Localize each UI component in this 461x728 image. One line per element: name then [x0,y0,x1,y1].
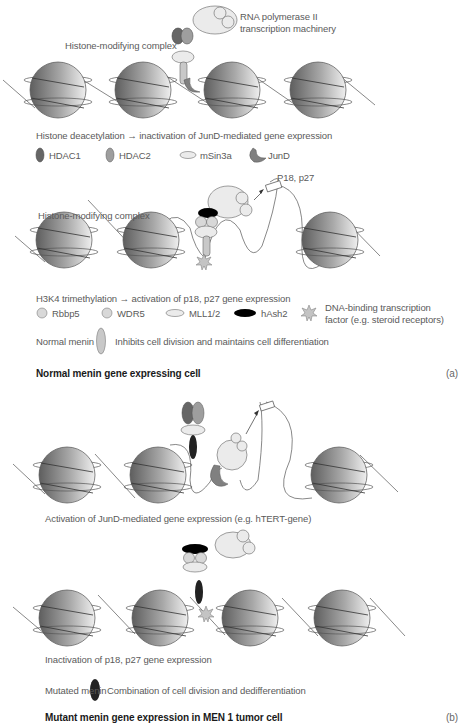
legend-tf-line2: factor (e.g. steroid receptors) [325,314,444,325]
transcription-factor-icon [301,305,317,321]
legend-mll: MLL1/2 [189,308,220,319]
caption-inactivation: Inactivation of p18, p27 gene expression [45,654,212,665]
legend-msin3a: mSin3a [200,150,232,161]
msin3a-icon [180,152,196,159]
legend-hash2: hAsh2 [261,308,287,319]
hash2-icon [234,309,256,317]
jund-icon [184,78,200,92]
nucleosome [24,62,92,118]
hmc-label-top: Histone-modifying complex [65,40,177,51]
nucleosome [33,590,101,646]
p18-p27-label: P18, p27 [277,172,314,183]
mll-icon [183,562,207,572]
row4-dna [13,590,405,646]
rnapol-label-1: RNA polymerase II [240,11,318,22]
mutated-menin-icon [195,580,203,604]
panel-b-tag: (b) [446,712,458,723]
rbbp5-icon [37,308,47,318]
caption-trimethylation: H3K4 trimethylation → activation of p18,… [36,293,290,304]
normal-menin-desc: Inhibits cell division and maintains cel… [115,336,329,347]
mutated-menin-icon [189,435,197,459]
normal-menin-icon [97,328,106,354]
hmc-label-mid: Histone-modifying complex [38,210,150,221]
nucleosome [308,590,376,646]
panel-a-title: Normal menin gene expressing cell [36,368,201,379]
nucleosome [126,590,194,646]
caption-activation: Activation of JunD-mediated gene express… [45,513,311,524]
panel-b-title: Mutant menin gene expression in MEN 1 tu… [45,712,282,723]
hdac2-icon [192,402,204,424]
row3-complex [181,401,275,486]
mutated-menin-desc: Combination of cell division and dediffe… [107,685,306,696]
hdac2-icon [181,28,193,44]
legend-tf-line1: DNA-binding transcription [325,302,431,313]
transcription-factor-icon [196,254,212,270]
nucleosome [284,62,352,118]
nucleosome [296,212,364,268]
hdac2-icon [106,148,114,162]
nucleosome [198,62,266,118]
legend-jund: JunD [268,150,290,161]
nucleosome [216,590,284,646]
legend-hdac2: HDAC2 [119,150,151,161]
nucleosome [33,447,101,503]
row3-dna [13,402,398,503]
hash2-icon [182,544,208,554]
rnapol-label-2: transcription machinery [240,23,336,34]
jund-icon [250,148,266,162]
wdr5-icon [102,308,112,318]
nucleosome [109,62,177,118]
nucleosome [124,447,192,503]
nucleosome [305,447,373,503]
menin-diagram [0,0,461,728]
msin3a-icon [181,425,205,435]
msin3a-icon [172,51,194,63]
mll-icon [166,310,184,317]
legend-wdr5: WDR5 [117,308,145,319]
panel-a-tag: (a) [446,368,458,379]
gene-box-icon [259,401,274,411]
mutated-menin-label: Mutated menin [45,685,107,696]
hdac1-icon [36,148,44,162]
legend-hdac1: HDAC1 [49,150,81,161]
legend-rbbp5: Rbbp5 [52,308,80,319]
menin-icon [203,236,210,256]
caption-deacetylation: Histone deacetylation → inactivation of … [36,130,332,141]
normal-menin-label: Normal menin [36,336,94,347]
